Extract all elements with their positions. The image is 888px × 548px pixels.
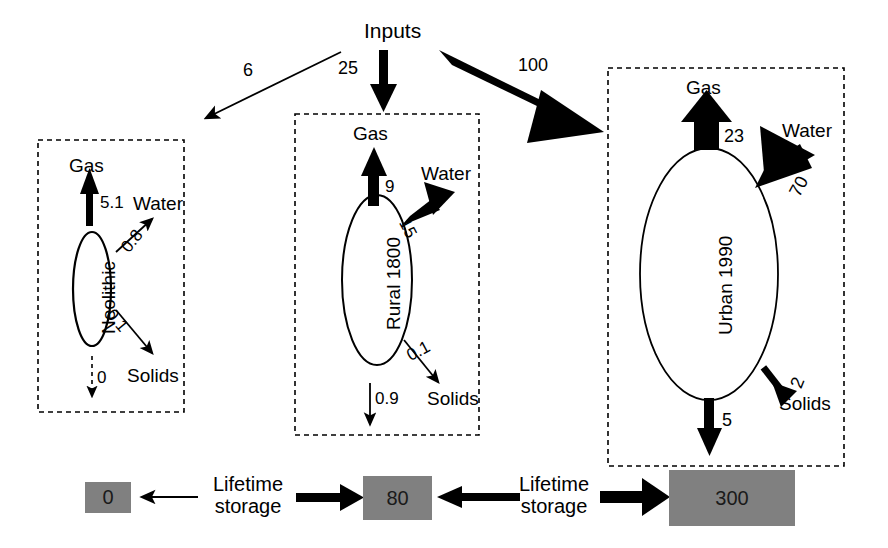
gas-arrow-neolithic [80,168,99,226]
storage-value-urban: 5 [722,411,732,429]
storage-box-urban: 300 [669,470,795,526]
water-label-urban: Water [782,121,832,140]
diagram-canvas: Inputs 6 25 100 Gas 5.1 Water 0.8 0.1 So… [0,0,888,548]
ellipse-label-neolithic: Neolithic [99,261,118,334]
storage-value-neolithic: 0 [97,369,106,386]
storage-value-rural: 0.9 [375,390,399,407]
lifetime-storage-label-right: Lifetime storage [506,474,602,517]
gas-value-neolithic: 5.1 [100,194,124,211]
ellipse-label-urban: Urban 1990 [716,236,735,335]
solids-label-rural: Solids [427,389,479,408]
lifetime-storage-right-line1: Lifetime [506,474,602,496]
solids-label-urban: Solids [779,394,831,413]
inputs-label: Inputs [364,20,421,41]
water-label-neolithic: Water [133,194,183,213]
storage-arrow-urban [697,398,722,456]
storage-box-neolithic: 0 [85,482,131,513]
storage-box-rural: 80 [363,476,432,520]
lifetime-arrow-to-three-hundred [600,478,670,516]
gas-value-urban: 23 [724,127,744,145]
water-label-rural: Water [421,164,471,183]
gas-value-rural: 9 [385,178,394,195]
diagram-vector-layer [0,0,888,548]
lifetime-storage-left-line1: Lifetime [200,474,296,496]
flow-arrow-inputs-to-neolithic [206,52,341,118]
flow-value-rural: 25 [338,59,358,77]
flow-value-neolithic: 6 [243,61,253,79]
lifetime-arrow-to-eighty [296,484,364,511]
flow-arrow-inputs-to-rural [370,50,397,112]
lifetime-storage-label-left: Lifetime storage [200,474,296,517]
lifetime-storage-right-line2: storage [506,496,602,518]
gas-label-rural: Gas [353,124,388,143]
lifetime-storage-left-line2: storage [200,496,296,518]
gas-label-urban: Gas [686,78,721,97]
ellipse-label-rural: Rural 1800 [384,237,403,330]
solids-label-neolithic: Solids [127,366,179,385]
gas-label-neolithic: Gas [69,156,104,175]
flow-value-urban: 100 [518,56,548,74]
